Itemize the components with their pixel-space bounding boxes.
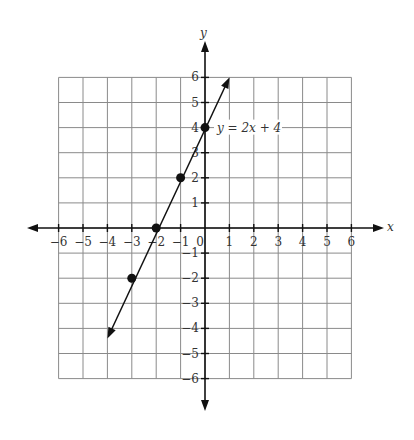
x-tick-label: 3 xyxy=(274,235,282,249)
function-line xyxy=(111,86,225,331)
y-tick-label: 4 xyxy=(191,121,199,135)
y-tick-label: 1 xyxy=(191,196,199,210)
y-tick-label: −2 xyxy=(181,271,199,285)
y-axis-bottom-arrow-icon xyxy=(201,400,209,411)
coordinate-plane: −6−5−4−3−2−10123456−6−5−4−3−2−1123456 x … xyxy=(0,0,414,440)
x-tick-label: −6 xyxy=(50,235,68,249)
x-tick-label: 4 xyxy=(299,235,307,249)
data-point xyxy=(152,224,161,233)
y-tick-label: 2 xyxy=(191,171,199,185)
x-tick-label: 1 xyxy=(226,235,234,249)
x-tick-label: −5 xyxy=(74,235,92,249)
x-axis-left-arrow-icon xyxy=(27,224,38,232)
y-tick-label: −3 xyxy=(181,296,199,310)
data-point xyxy=(127,274,136,283)
y-axis-label: y xyxy=(199,26,207,40)
data-point xyxy=(201,123,210,132)
x-tick-label: 2 xyxy=(250,235,258,249)
x-tick-label: −4 xyxy=(99,235,117,249)
y-tick-label: 5 xyxy=(191,96,199,110)
axes xyxy=(27,41,384,411)
y-tick-label: −5 xyxy=(181,347,199,361)
x-tick-label: 5 xyxy=(323,235,331,249)
x-tick-label: 6 xyxy=(348,235,356,249)
x-axis-right-arrow-icon xyxy=(373,224,384,232)
graph-svg: −6−5−4−3−2−10123456−6−5−4−3−2−1123456 x … xyxy=(0,0,414,440)
y-tick-label: −1 xyxy=(181,246,199,260)
data-point xyxy=(176,173,185,182)
y-tick-label: 6 xyxy=(191,70,199,84)
y-tick-label: −4 xyxy=(181,321,199,335)
x-tick-label: −3 xyxy=(123,235,141,249)
y-tick-label: −6 xyxy=(181,372,199,386)
line-end-arrow-icon xyxy=(221,77,229,89)
y-axis-top-arrow-icon xyxy=(201,41,209,52)
equation-label: y = 2x + 4 xyxy=(216,121,281,135)
x-axis-label: x xyxy=(387,220,394,234)
